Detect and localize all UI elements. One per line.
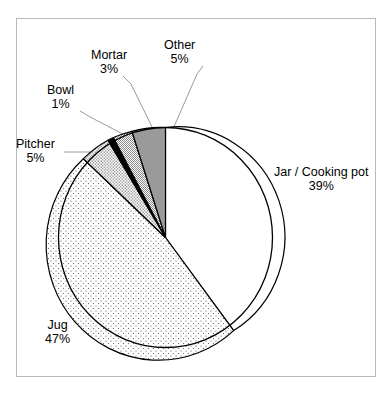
slice-label-mortar-name: Mortar xyxy=(91,48,127,62)
slice-label-jar-cooking-pot-value: 39% xyxy=(274,179,369,193)
slice-label-other-name: Other xyxy=(164,38,195,52)
slice-label-jar-cooking-pot-name: Jar / Cooking pot xyxy=(274,165,369,179)
leader-line-mortar xyxy=(123,76,155,133)
slice-label-bowl-value: 1% xyxy=(47,97,74,111)
slice-label-mortar: Mortar 3% xyxy=(91,48,127,76)
slice-label-other-value: 5% xyxy=(164,52,195,66)
slice-label-mortar-value: 3% xyxy=(91,62,127,76)
slice-label-bowl: Bowl 1% xyxy=(47,83,74,111)
slice-label-jug-value: 47% xyxy=(45,332,70,346)
slice-label-pitcher: Pitcher 5% xyxy=(16,137,55,165)
leader-line-other xyxy=(173,66,203,129)
slice-label-jug: Jug 47% xyxy=(45,318,70,346)
slice-label-pitcher-name: Pitcher xyxy=(16,137,55,151)
slice-label-bowl-name: Bowl xyxy=(47,83,74,97)
slice-label-jug-name: Jug xyxy=(45,318,70,332)
slice-label-pitcher-value: 5% xyxy=(16,151,55,165)
slice-label-other: Other 5% xyxy=(164,38,195,66)
slice-label-jar-cooking-pot: Jar / Cooking pot 39% xyxy=(274,165,369,193)
pie-chart-figure: Other 5% Mortar 3% Bowl 1% Pitcher 5% Ja… xyxy=(0,0,392,395)
